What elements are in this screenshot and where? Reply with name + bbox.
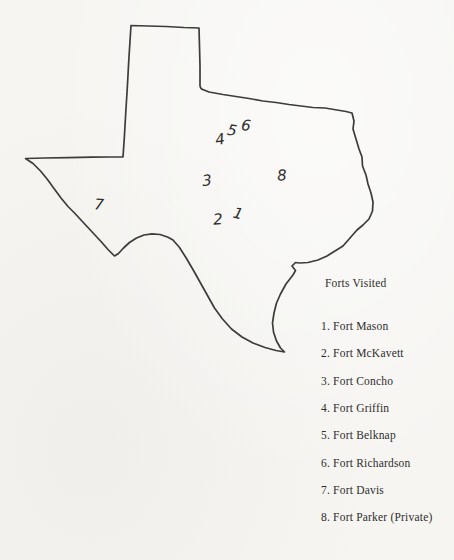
legend-item-fort-griffin: 4. Fort Griffin (321, 395, 432, 422)
map-marker-4: 4 (214, 132, 226, 148)
map-marker-2: 2 (213, 212, 224, 228)
legend-item-fort-belknap: 5. Fort Belknap (321, 422, 432, 449)
scanned-page: 1 2 3 4 5 6 7 8 Forts Visited 1. Fort Ma… (0, 0, 454, 560)
legend-item-fort-richardson: 6. Fort Richardson (321, 450, 432, 477)
legend-item-fort-concho: 3. Fort Concho (321, 368, 432, 395)
map-marker-3: 3 (201, 173, 212, 189)
legend-item-fort-parker: 8. Fort Parker (Private) (321, 504, 432, 531)
legend-item-fort-mason: 1. Fort Mason (321, 313, 432, 340)
legend-item-fort-mckavett: 2. Fort McKavett (321, 340, 432, 367)
map-marker-8: 8 (277, 168, 288, 184)
map-marker-6: 6 (240, 118, 251, 134)
texas-border-path (26, 26, 374, 353)
map-marker-7: 7 (94, 197, 105, 213)
legend-item-fort-davis: 7. Fort Davis (321, 477, 432, 504)
legend-item-list: 1. Fort Mason 2. Fort McKavett 3. Fort C… (321, 313, 432, 532)
legend-title: Forts Visited (325, 277, 386, 290)
